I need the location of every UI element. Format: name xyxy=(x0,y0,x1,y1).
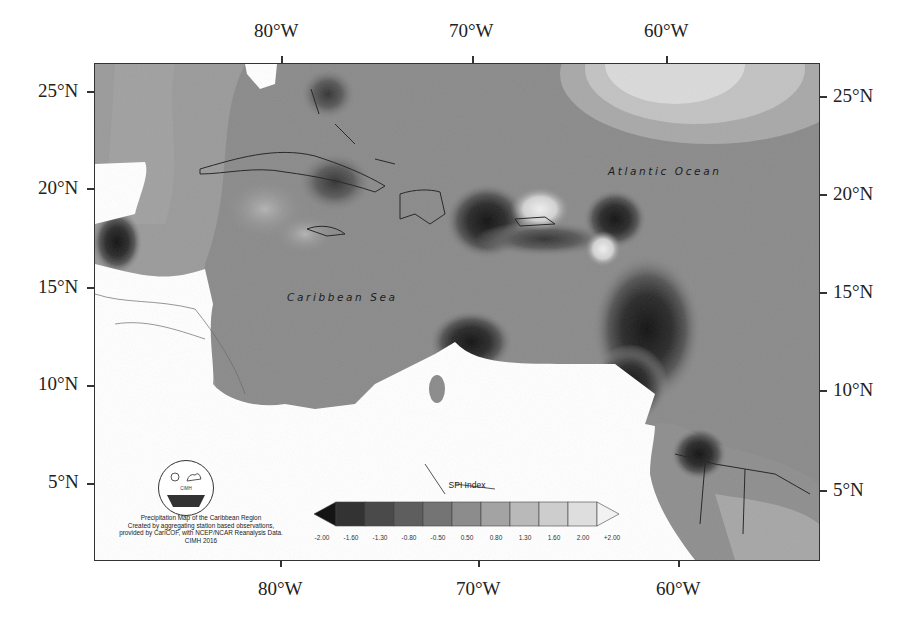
cloud-icon xyxy=(187,474,201,481)
right-tick-label-25n: 25°N xyxy=(833,85,873,107)
colorbar-tick: 0.80 xyxy=(490,534,503,541)
bottom-tick-label-60w: 60°W xyxy=(656,578,701,600)
colorbar-tick: 2.00 xyxy=(577,534,590,541)
colorbar-tick: -1.30 xyxy=(373,534,388,541)
bottom-tick-label-70w: 70°W xyxy=(456,578,501,600)
colorbar-tick: 1.30 xyxy=(519,534,532,541)
tick-mark xyxy=(820,390,827,392)
right-tick-label-5n: 5°N xyxy=(833,479,864,501)
sun-icon xyxy=(171,473,179,481)
tick-mark xyxy=(820,194,827,196)
tick-mark xyxy=(87,287,94,289)
credit-text: Precipitation Map of the Caribbean Regio… xyxy=(96,514,306,544)
top-tick-label-60w: 60°W xyxy=(644,20,689,42)
tick-mark xyxy=(280,560,282,567)
left-tick-label-20n: 20°N xyxy=(38,177,78,199)
colorbar-tick: 1.60 xyxy=(548,534,561,541)
credit-line-1: Precipitation Map of the Caribbean Regio… xyxy=(96,514,306,522)
colorbar-tick: -0.80 xyxy=(402,534,417,541)
colorbar-tick: 0.50 xyxy=(461,534,474,541)
tick-mark xyxy=(678,560,680,567)
tick-mark xyxy=(478,560,480,567)
atlantic-ocean-label: Atlantic Ocean xyxy=(608,165,721,177)
right-tick-label-15n: 15°N xyxy=(833,281,873,303)
credit-line-2: Created by aggregating station based obs… xyxy=(96,522,306,530)
colorbar xyxy=(312,494,622,534)
left-tick-label-5n: 5°N xyxy=(48,471,79,493)
colorbar-tick: -1.60 xyxy=(344,534,359,541)
credit-line-4: CIMH 2016 xyxy=(96,537,306,545)
tick-mark xyxy=(87,188,94,190)
spi-legend: SPI Index -2.00 -1.60 -1.30 -0.80 -0.50 … xyxy=(312,480,622,550)
tick-mark xyxy=(87,483,94,485)
colorbar-tick: -0.50 xyxy=(431,534,446,541)
tick-mark xyxy=(87,385,94,387)
left-tick-label-15n: 15°N xyxy=(38,276,78,298)
top-tick-label-80w: 80°W xyxy=(254,20,299,42)
colorbar-tick: +2.00 xyxy=(604,534,620,541)
colorbar-tick: -2.00 xyxy=(315,534,330,541)
left-tick-label-25n: 25°N xyxy=(38,80,78,102)
svg-text:CIMH: CIMH xyxy=(180,486,192,491)
left-tick-label-10n: 10°N xyxy=(38,373,78,395)
legend-title: SPI Index xyxy=(312,480,622,490)
top-tick-label-70w: 70°W xyxy=(449,20,494,42)
tick-mark xyxy=(820,292,827,294)
bottom-tick-label-80w: 80°W xyxy=(258,578,303,600)
tick-mark xyxy=(820,96,827,98)
tick-mark xyxy=(87,91,94,93)
credit-line-3: provided by CariCOF, with NCEP/NCAR Rean… xyxy=(96,529,306,537)
right-tick-label-20n: 20°N xyxy=(833,183,873,205)
caribbean-sea-label: Caribbean Sea xyxy=(287,291,398,303)
tick-mark xyxy=(820,490,827,492)
right-tick-label-10n: 10°N xyxy=(833,379,873,401)
cimh-logo: CIMH xyxy=(158,460,214,516)
